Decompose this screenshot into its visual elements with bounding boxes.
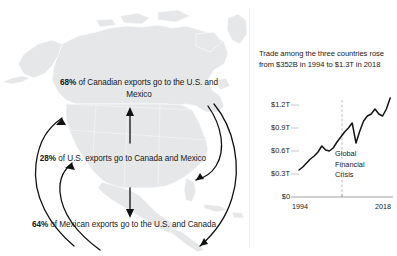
florida-shape	[184, 178, 196, 202]
y-axis-label-1: $1.2T	[271, 101, 290, 109]
arctic-island-2	[158, 10, 190, 22]
trade-chart-panel: Trade among the three countries rose fro…	[250, 0, 397, 256]
arrow-down-icon-head	[126, 209, 134, 218]
x-axis-label-start: 1994	[292, 202, 308, 211]
annotation-mexico-text: of Mexican exports go to the U.S. and Ca…	[48, 220, 216, 229]
annotation-canada-text: of Canadian exports go to the U.S. and M…	[76, 78, 218, 99]
annotation-us-exports: 28% of U.S. exports go to Canada and Mex…	[34, 153, 212, 165]
y-axis-label-5: $0	[282, 193, 290, 201]
annotation-us-text: of U.S. exports go to Canada and Mexico	[56, 154, 206, 163]
annotation-global-financial-crisis: Global Financial Crisis	[335, 149, 387, 181]
north-america-map-panel: 68% of Canadian exports go to the U.S. a…	[0, 0, 248, 256]
x-axis-label-end: 2018	[375, 202, 391, 211]
greenland-shape	[227, 14, 247, 44]
annotation-canada-exports: 68% of Canadian exports go to the U.S. a…	[54, 77, 224, 100]
chart-title: Trade among the three countries rose fro…	[259, 48, 397, 70]
y-axis-labels: $1.2T $0.9T $0.6T $0.3T $0	[250, 95, 290, 220]
curved-arrow-up-left-icon-2	[60, 163, 100, 250]
y-axis-label-2: $0.9T	[271, 124, 290, 132]
y-axis-label-4: $0.3T	[271, 170, 290, 178]
crisis-note-line-2: Financial	[335, 160, 387, 171]
crisis-note-line-1: Global	[335, 149, 387, 160]
arctic-island-1	[120, 13, 150, 24]
y-axis-label-3: $0.6T	[271, 147, 290, 155]
chart-plot-area: $1.2T $0.9T $0.6T $0.3T $0 1994 2018 Glo…	[250, 95, 397, 220]
trade-infographic: 68% of Canadian exports go to the U.S. a…	[0, 0, 397, 256]
annotation-canada-pct: 68%	[60, 78, 76, 87]
annotation-mexico-pct: 64%	[32, 220, 48, 229]
arctic-island-3	[96, 19, 116, 27]
curved-arrow-down-right-icon-2-head	[196, 173, 204, 180]
annotation-mexico-exports: 64% of Mexican exports go to the U.S. an…	[24, 219, 224, 231]
central-america-shape	[170, 228, 204, 252]
aleutian-islands	[2, 76, 30, 84]
cuba-shape	[204, 204, 228, 212]
north-america-map-graphic	[0, 0, 248, 256]
annotation-us-pct: 28%	[40, 154, 56, 163]
united-states-shape	[66, 104, 208, 188]
crisis-note-line-3: Crisis	[335, 170, 387, 181]
hispaniola-shape	[232, 212, 244, 218]
